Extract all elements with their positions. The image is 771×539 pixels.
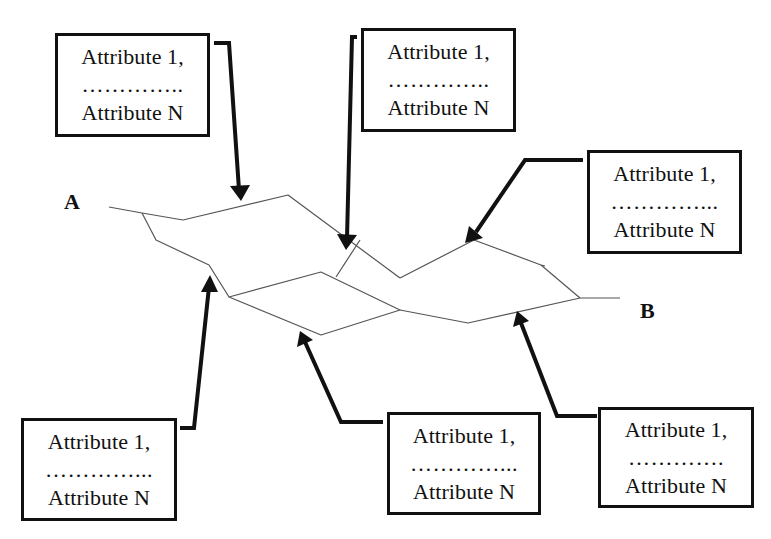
arrow-top-center (347, 37, 357, 238)
arrowhead-bottom-left-icon (201, 275, 218, 292)
attribute-first: Attribute 1, (625, 415, 728, 445)
attribute-first: Attribute 1, (387, 37, 490, 67)
arrowhead-top-center-icon (337, 234, 357, 250)
attribute-box-bottom-right: Attribute 1, …………. Attribute N (598, 407, 754, 508)
arrowhead-top-left-icon (230, 185, 250, 201)
attribute-ellipsis: ………….. (82, 72, 184, 98)
attribute-first: Attribute 1, (48, 427, 151, 457)
link-upper-path (142, 195, 400, 278)
attribute-ellipsis: ………….. (388, 67, 490, 93)
attribute-box-top-left: Attribute 1, ………….. Attribute N (55, 33, 210, 137)
attribute-last: Attribute N (614, 215, 716, 245)
link-lower-path (400, 298, 580, 323)
link-diamond (229, 272, 400, 335)
attribute-last: Attribute N (413, 477, 515, 507)
attribute-last: Attribute N (388, 93, 490, 123)
arrow-bottom-left (180, 287, 209, 428)
arrow-bottom-right (521, 323, 597, 416)
attribute-first: Attribute 1, (413, 421, 516, 451)
attribute-last: Attribute N (82, 98, 184, 128)
node-label-a: A (64, 191, 80, 213)
attribute-box-top-center: Attribute 1, ………….. Attribute N (361, 28, 516, 132)
attribute-ellipsis: …………... (45, 457, 153, 483)
link-upper-right-path (400, 240, 545, 278)
link-upper-right-descent (541, 265, 580, 298)
attribute-first: Attribute 1, (81, 42, 184, 72)
node-label-b: B (640, 300, 655, 322)
attribute-first: Attribute 1, (613, 159, 716, 189)
attribute-box-bottom-left: Attribute 1, …………... Attribute N (21, 418, 177, 521)
arrowheads (201, 185, 529, 347)
attribute-ellipsis: …………... (611, 189, 719, 215)
arrow-top-left (214, 43, 239, 190)
attribute-box-right: Attribute 1, …………... Attribute N (587, 150, 742, 254)
link-entry-from-a (109, 207, 142, 213)
attribute-last: Attribute N (48, 483, 150, 513)
attribute-ellipsis: …………... (410, 451, 518, 477)
link-left-descent (142, 213, 229, 297)
network-links (109, 195, 620, 335)
attribute-box-bottom-center: Attribute 1, …………... Attribute N (387, 412, 541, 515)
arrow-bottom-center (305, 342, 383, 422)
arrow-right (476, 160, 583, 232)
attribute-last: Attribute N (625, 471, 727, 501)
attribute-ellipsis: …………. (628, 445, 724, 471)
